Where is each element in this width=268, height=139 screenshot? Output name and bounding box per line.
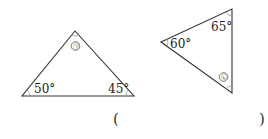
angle-label-65: 65° — [211, 20, 232, 34]
angle-arc-bottom-b — [226, 86, 232, 89]
answer-close-paren: ) — [259, 110, 265, 128]
answer-open-paren: ( — [113, 110, 119, 128]
angle-label-60: 60° — [170, 37, 191, 51]
answer-blank[interactable] — [125, 110, 255, 130]
angle-arc-top-b — [226, 12, 232, 16]
triangle-b: ㉡ 60° 65° — [161, 9, 232, 93]
angle-arc-top — [72, 35, 79, 36]
angle-marker-a: ㉠ — [73, 42, 79, 50]
angle-label-45: 45° — [108, 82, 129, 96]
angle-arc-left-b — [167, 39, 168, 46]
angle-label-50: 50° — [34, 82, 55, 96]
angle-arc-left — [27, 90, 30, 96]
angle-marker-b: ㉡ — [221, 73, 227, 81]
triangle-a: ㉠ 50° 45° — [22, 31, 134, 96]
